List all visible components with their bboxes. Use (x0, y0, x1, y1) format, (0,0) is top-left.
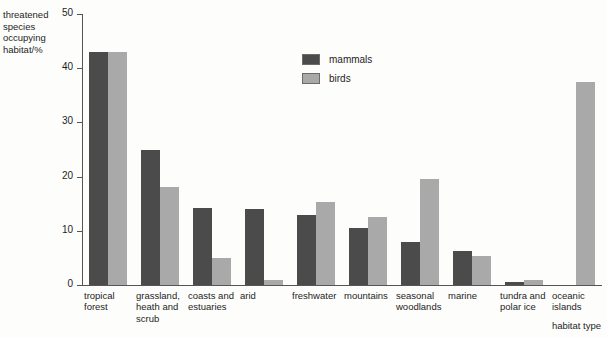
y-tick-50: 50 (77, 14, 82, 15)
legend: mammals birds (302, 51, 372, 89)
y-tick-0: 0 (77, 285, 82, 286)
y-tick-40: 40 (77, 68, 82, 69)
y-tick-20: 20 (77, 177, 82, 178)
y-axis-title-line-3: occupying (3, 32, 61, 44)
bar-birds-marine (472, 256, 491, 285)
y-axis-title: threatened species occupying habitat/% (3, 9, 61, 55)
y-tick-label-40: 40 (62, 61, 73, 72)
bar-mammals-marine (453, 251, 472, 285)
y-axis-title-line-1: threatened (3, 9, 61, 21)
x-axis-title: habitat type (552, 320, 601, 331)
x-label-tundra-and-polar-ice: tundra andpolar ice (500, 290, 545, 313)
legend-item-mammals: mammals (302, 51, 372, 67)
x-label-tropical-forest: tropicalforest (84, 290, 115, 313)
legend-swatch-birds-icon (302, 73, 320, 84)
y-tick-10: 10 (77, 231, 82, 232)
y-tick-label-50: 50 (62, 7, 73, 18)
x-label-coasts-and-estuaries: coasts andestuaries (188, 290, 234, 313)
bar-mammals-coasts-and-estuaries (193, 208, 212, 286)
bar-chart: threatened species occupying habitat/% 0… (0, 0, 607, 338)
y-tick-label-10: 10 (62, 224, 73, 235)
legend-label-mammals: mammals (329, 54, 372, 65)
x-label-seasonal-woodlands: seasonalwoodlands (396, 290, 441, 313)
bar-birds-seasonal-woodlands (420, 179, 439, 285)
x-axis-line (82, 285, 602, 286)
legend-swatch-mammals-icon (302, 54, 320, 65)
bar-birds-tropical-forest (108, 52, 127, 285)
bar-birds-freshwater (316, 202, 335, 285)
bar-birds-grassland-heath-and-scrub (160, 187, 179, 285)
legend-label-birds: birds (329, 73, 351, 84)
bar-mammals-freshwater (297, 215, 316, 285)
bar-mammals-arid (245, 209, 264, 285)
bar-mammals-grassland-heath-and-scrub (141, 150, 160, 286)
x-label-arid: arid (240, 290, 256, 301)
bar-mammals-tundra-and-polar-ice (505, 282, 524, 285)
y-axis-line (82, 14, 83, 286)
bar-birds-oceanic-islands (576, 82, 595, 285)
bar-birds-arid (264, 280, 283, 285)
bar-birds-tundra-and-polar-ice (524, 280, 543, 285)
bar-birds-coasts-and-estuaries (212, 258, 231, 285)
y-tick-30: 30 (77, 122, 82, 123)
y-axis-title-line-4: habitat/% (3, 44, 61, 56)
y-tick-label-30: 30 (62, 115, 73, 126)
bar-mammals-tropical-forest (89, 52, 108, 285)
x-label-grassland-heath-and-scrub: grassland,heath andscrub (136, 290, 180, 324)
x-label-freshwater: freshwater (292, 290, 336, 301)
x-label-mountains: mountains (344, 290, 388, 301)
y-axis-title-line-2: species (3, 21, 61, 33)
legend-item-birds: birds (302, 70, 372, 86)
x-label-marine: marine (448, 290, 477, 301)
bar-birds-mountains (368, 217, 387, 285)
x-label-oceanic-islands: oceanicislands (552, 290, 585, 313)
y-tick-label-20: 20 (62, 170, 73, 181)
bar-mammals-seasonal-woodlands (401, 242, 420, 285)
bar-mammals-mountains (349, 228, 368, 285)
y-tick-label-0: 0 (67, 278, 73, 289)
